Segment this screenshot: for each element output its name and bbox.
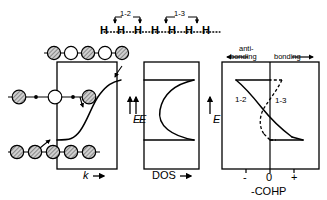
orbital-node-dot (34, 95, 38, 99)
dos-panel-frame (144, 62, 199, 169)
panel-cohp (210, 57, 319, 173)
cohp-bonding-label: bonding (274, 53, 301, 61)
orbital-row-bottom-bonding (8, 145, 100, 158)
orbital-lobe-hatched (82, 145, 95, 158)
orbital-lobe-hatched (12, 90, 26, 104)
cohp-curve-label-1-2: 1-2 (235, 96, 247, 104)
cohp-13-curve-tail (264, 134, 270, 140)
orbital-lobe-hatched (46, 145, 59, 158)
orbital-row-top-antibonding (44, 46, 129, 59)
h-atom: H (100, 25, 108, 36)
orbital-lobe-hatched (81, 46, 94, 59)
orbital-lobe-hatched (115, 46, 128, 59)
cohp-energy-axis-label: E (213, 114, 220, 125)
band-curve (57, 80, 121, 140)
h-atom: H (168, 25, 176, 36)
cohp-tick-plus: + (291, 172, 297, 183)
k-axis-label: k (83, 170, 89, 181)
orbital-node-dot (71, 95, 75, 99)
cohp-tick-zero: 0 (266, 172, 272, 183)
cohp-curve-label-1-3: 1-3 (275, 97, 287, 105)
orbital-lobe-white (48, 90, 62, 104)
dos-axis-label: DOS (152, 170, 176, 181)
dos-curve (160, 80, 194, 140)
h-atom: H (185, 25, 193, 36)
interaction-label-1-2: 1-2 (120, 10, 131, 18)
figure-root: H H H H H H H 1-2 1-3 E k E DOS E anti- … (0, 0, 327, 200)
pointer-top-arrow (115, 66, 122, 77)
orbital-row-middle-nonbonding (8, 90, 96, 104)
orbital-lobe-hatched (47, 46, 60, 59)
h-atom: H (134, 25, 142, 36)
interaction-label-1-3: 1-3 (174, 10, 185, 18)
dos-energy-axis-label: E (139, 114, 146, 125)
cohp-axis-label: -COHP (251, 186, 286, 197)
orbital-lobe-hatched (82, 90, 96, 104)
h-atom: H (117, 25, 125, 36)
orbital-lobe-white (98, 46, 111, 59)
cohp-antibonding-label-line2: bonding (230, 53, 257, 61)
orbital-lobe-hatched (10, 145, 23, 158)
orbital-lobe-hatched (28, 145, 41, 158)
orbital-lobe-white (64, 46, 77, 59)
h-atom: H (202, 25, 210, 36)
h-atom: H (151, 25, 159, 36)
orbital-lobe-hatched (64, 145, 77, 158)
cohp-tick-minus: - (243, 172, 247, 183)
